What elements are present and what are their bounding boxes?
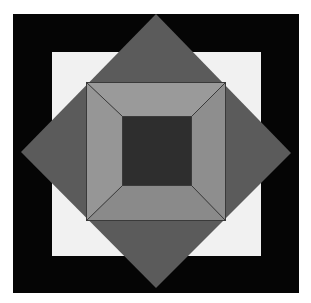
center-dark-square	[122, 116, 192, 186]
artwork-svg	[0, 0, 311, 303]
artwork-canvas	[0, 0, 311, 303]
